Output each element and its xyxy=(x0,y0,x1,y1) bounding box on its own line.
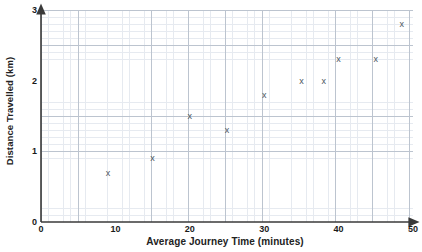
data-point: x xyxy=(106,168,111,177)
x-tick-label: 30 xyxy=(259,224,269,234)
x-axis-title: Average Journey Time (minutes) xyxy=(41,236,409,247)
data-point: x xyxy=(262,90,267,99)
x-tick-label: 40 xyxy=(334,224,344,234)
data-point: x xyxy=(225,126,230,135)
data-point: x xyxy=(150,154,155,163)
grid-lines xyxy=(41,10,413,222)
data-point: x xyxy=(188,112,193,121)
plot-area: xxxxxxxxxx xyxy=(41,10,413,222)
data-point: x xyxy=(299,76,304,85)
y-tick-label: 2 xyxy=(25,76,37,86)
data-point: x xyxy=(400,20,405,29)
y-tick-label: 1 xyxy=(25,146,37,156)
data-point: x xyxy=(374,55,379,64)
x-tick-label: 50 xyxy=(408,224,418,234)
x-tick-label: 0 xyxy=(38,224,43,234)
y-tick-label: 3 xyxy=(25,5,37,15)
y-tick-label: 0 xyxy=(25,217,37,227)
scatter-plot-figure: Distance Travelled (km) Average Journey … xyxy=(0,0,422,252)
x-tick-label: 10 xyxy=(110,224,120,234)
y-axis-title: Distance Travelled (km) xyxy=(0,0,18,222)
data-point: x xyxy=(336,55,341,64)
data-point: x xyxy=(321,76,326,85)
x-tick-label: 20 xyxy=(185,224,195,234)
